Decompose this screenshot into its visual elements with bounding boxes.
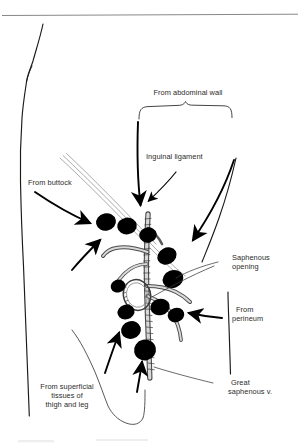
label-saphenous-opening-line2: opening — [232, 262, 259, 271]
label-from-abdominal-wall: From abdominal wall — [133, 88, 243, 97]
label-superficial-line1: From superficial — [20, 382, 114, 391]
label-great-saphenous-line2: saphenous v. — [228, 387, 272, 396]
label-from-perineum-line2: perineum — [232, 314, 263, 323]
inguinal-lymphatic-diagram — [0, 0, 300, 448]
label-from-buttock: From buttock — [28, 178, 72, 187]
label-saphenous-opening-line1: Saphenous — [232, 253, 270, 262]
label-superficial-line3: thigh and leg — [20, 400, 114, 409]
label-inguinal-ligament: Inguinal ligament — [146, 152, 203, 161]
label-from-perineum-line1: From — [236, 305, 253, 314]
label-great-saphenous-line1: Great — [231, 378, 250, 387]
label-superficial-line2: tissues of — [20, 391, 114, 400]
